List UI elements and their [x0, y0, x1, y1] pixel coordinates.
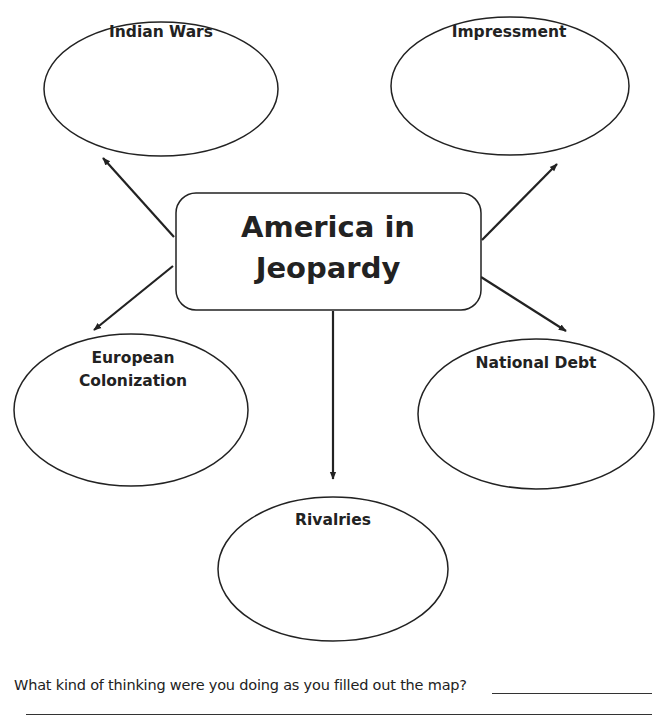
answer-line-2[interactable]: [26, 714, 652, 715]
node-european-colonization-label-line-1: European: [91, 349, 174, 367]
node-indian-wars-ellipse[interactable]: [44, 22, 278, 156]
arrow-to-european-colonization: [94, 266, 173, 330]
reflection-question: What kind of thinking were you doing as …: [14, 677, 467, 693]
arrow-to-national-debt: [481, 277, 566, 331]
node-national-debt: National Debt: [418, 339, 654, 489]
answer-line-1[interactable]: [492, 693, 652, 694]
node-impressment: Impressment: [391, 17, 629, 155]
node-european-colonization-label-line-2: Colonization: [79, 372, 187, 390]
node-european-colonization: European Colonization: [14, 334, 248, 486]
center-node-title-line-2: Jeopardy: [254, 251, 401, 285]
concept-map: America in Jeopardy Indian Wars Impressm…: [0, 0, 667, 727]
center-node-title-line-1: America in: [241, 210, 415, 244]
arrow-to-impressment: [482, 164, 557, 240]
center-node: America in Jeopardy: [176, 193, 481, 310]
node-impressment-label: Impressment: [452, 23, 567, 41]
arrow-to-indian-wars: [103, 158, 174, 237]
node-indian-wars-label: Indian Wars: [109, 23, 213, 41]
node-national-debt-label: National Debt: [476, 354, 597, 372]
node-rivalries: Rivalries: [218, 497, 448, 641]
node-indian-wars: Indian Wars: [44, 22, 278, 156]
node-rivalries-label: Rivalries: [295, 511, 371, 529]
